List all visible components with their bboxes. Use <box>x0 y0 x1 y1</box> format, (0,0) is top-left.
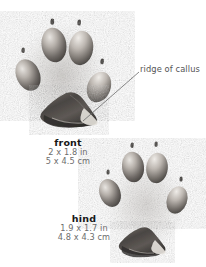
hind-track-label: hind 1.9 x 1.7 in 4.8 x 4.3 cm <box>30 214 138 242</box>
front-track-label: front 2 x 1.8 in 5 x 4.5 cm <box>14 138 122 166</box>
front-measure-metric: 5 x 4.5 cm <box>14 157 122 166</box>
hind-measure-metric: 4.8 x 4.3 cm <box>30 233 138 242</box>
annotation-ridge-of-callus: ridge of callus <box>140 64 200 74</box>
